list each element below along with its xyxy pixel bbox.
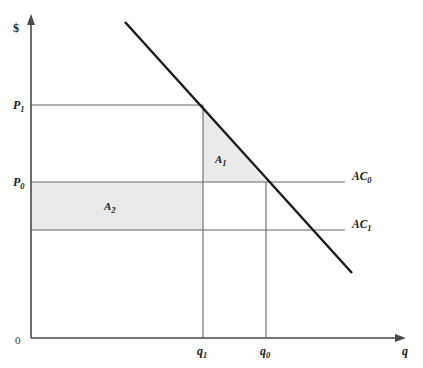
economics-diagram: $ q 0 P1 P0 q1 q0 AC0 AC1 A1 [0,0,423,368]
curve-label-ac0: AC0 [351,170,372,185]
origin-label: 0 [15,334,21,346]
shaded-area-a2 [31,182,203,230]
x-axis-arrow-icon [395,334,406,342]
quantity-label-q0: q0 [260,344,271,360]
y-axis-arrow-icon [27,14,35,25]
y-axis-title: $ [13,21,19,35]
quantity-label-q1: q1 [197,344,207,360]
price-label-p0: P0 [13,175,25,191]
demand-curve [125,22,352,273]
price-label-p1: P1 [13,98,25,114]
x-axis-title: q [402,344,408,358]
curve-label-ac1: AC1 [351,218,372,233]
